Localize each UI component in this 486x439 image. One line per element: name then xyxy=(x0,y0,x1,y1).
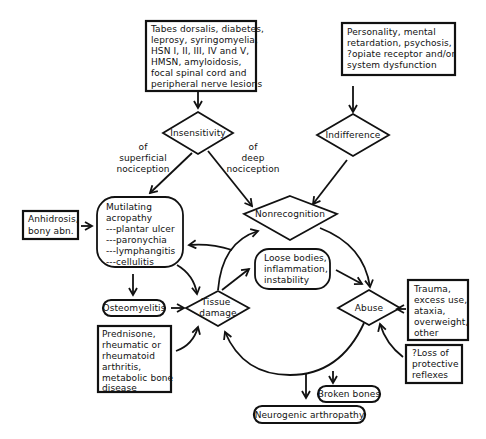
svg-text:overweight,: overweight, xyxy=(414,317,468,327)
arrow-loose-bodies-to-abuse xyxy=(336,270,362,284)
causes-line-4: HMSN, amyloidosis, xyxy=(151,57,242,67)
svg-text:---paronychia: ---paronychia xyxy=(106,235,167,245)
arrow-tissue-damage-to-loose-bodies xyxy=(222,269,249,290)
abuse-diamond: Abuse xyxy=(338,290,400,325)
svg-text:Broken bones: Broken bones xyxy=(318,389,381,399)
svg-text:of: of xyxy=(139,142,149,152)
svg-text:---lymphangitis: ---lymphangitis xyxy=(106,246,176,256)
indifference-label: Indifference xyxy=(326,130,381,140)
arrow-tissue-damage-to-nonrecognition xyxy=(218,231,258,290)
anhidrosis-box: Anhidrosis, bony abn. xyxy=(23,211,79,239)
osteomyelitis-pill: Osteomyelitis xyxy=(103,300,166,316)
svg-text:Neurogenic arthropathy: Neurogenic arthropathy xyxy=(255,410,365,420)
causes-line-3: HSN I, II, III, IV and V, xyxy=(151,46,249,56)
svg-text:---cellulitis: ---cellulitis xyxy=(106,257,154,267)
svg-text:Osteomyelitis: Osteomyelitis xyxy=(103,303,166,313)
insensitivity-diamond: Insensitivity xyxy=(163,112,233,154)
svg-text:rheumatic or: rheumatic or xyxy=(102,340,161,350)
svg-text:protective: protective xyxy=(412,359,459,369)
svg-text:disease: disease xyxy=(102,383,137,393)
svg-text:Mutilating: Mutilating xyxy=(106,202,152,212)
svg-text:deep: deep xyxy=(242,153,265,163)
causes-line-1: Tabes dorsalis, diabetes, xyxy=(150,24,264,34)
insensitivity-label: Insensitivity xyxy=(170,128,226,138)
arrow-indifference-to-nonrecognition xyxy=(313,160,347,204)
superficial-nociception-label: of superficial nociception xyxy=(116,142,169,174)
svg-text:reflexes: reflexes xyxy=(412,370,448,380)
tissue-damage-diamond: Tissue damage xyxy=(186,291,249,326)
svg-text:?Loss of: ?Loss of xyxy=(412,348,450,358)
causes-line-6: peripheral nerve lesions xyxy=(151,79,262,89)
svg-text:other: other xyxy=(414,328,439,338)
causes-line-2: leprosy, syringomyelia, xyxy=(151,35,258,45)
svg-text:Tissue: Tissue xyxy=(201,297,231,307)
svg-text:---plantar ulcer: ---plantar ulcer xyxy=(106,224,175,234)
personality-line-2: retardation, psychosis, xyxy=(347,38,452,48)
prednisone-box: Prednisone, rheumatic or rheumatoid arth… xyxy=(98,326,174,393)
broken-bones-pill: Broken bones xyxy=(318,386,381,402)
trauma-box: Trauma, excess use, ataxia, overweight, … xyxy=(408,280,468,340)
svg-text:nociception: nociception xyxy=(226,164,279,174)
personality-line-1: Personality, mental xyxy=(347,27,436,37)
mutilating-acropathy-box: Mutilating acropathy ---plantar ulcer --… xyxy=(97,197,183,267)
svg-text:of: of xyxy=(249,142,259,152)
arrow-abuse-to-tissue-damage xyxy=(225,323,364,375)
svg-text:rheumatoid: rheumatoid xyxy=(102,351,155,361)
loose-bodies-box: Loose bodies, inflammation, instability xyxy=(255,249,330,289)
arrow-tissue-damage-to-mutilating xyxy=(189,245,232,250)
svg-text:nociception: nociception xyxy=(116,164,169,174)
arrow-mutilating-to-tissue-damage xyxy=(177,265,197,294)
flowchart-canvas: Tabes dorsalis, diabetes, leprosy, syrin… xyxy=(0,0,486,439)
deep-nociception-label: of deep nociception xyxy=(226,142,279,174)
svg-text:bony abn.: bony abn. xyxy=(28,226,74,236)
svg-text:Loose bodies,: Loose bodies, xyxy=(264,253,327,263)
personality-line-3: ?opiate receptor and/or xyxy=(347,49,455,59)
personality-line-4: system dysfunction xyxy=(347,60,437,70)
personality-box: Personality, mental retardation, psychos… xyxy=(342,23,455,75)
svg-text:acropathy: acropathy xyxy=(106,213,153,223)
svg-text:metabolic bone: metabolic bone xyxy=(102,373,174,383)
svg-text:Anhidrosis,: Anhidrosis, xyxy=(28,214,79,224)
svg-text:Prednisone,: Prednisone, xyxy=(102,329,156,339)
nonrecognition-diamond: Nonrecognition xyxy=(244,196,337,240)
arrow-reflexes-to-abuse xyxy=(380,324,403,357)
svg-text:damage: damage xyxy=(199,308,237,318)
neurogenic-arthropathy-pill: Neurogenic arthropathy xyxy=(254,406,365,423)
svg-text:instability: instability xyxy=(264,275,310,285)
svg-text:ataxia,: ataxia, xyxy=(414,306,445,316)
svg-text:arthritis,: arthritis, xyxy=(102,362,141,372)
causes-box: Tabes dorsalis, diabetes, leprosy, syrin… xyxy=(146,21,264,91)
nonrecognition-label: Nonrecognition xyxy=(255,209,325,219)
causes-line-5: focal spinal cord and xyxy=(151,68,247,78)
svg-text:Abuse: Abuse xyxy=(355,303,384,313)
svg-text:superficial: superficial xyxy=(119,153,167,163)
svg-text:inflammation,: inflammation, xyxy=(264,264,328,274)
svg-text:Trauma,: Trauma, xyxy=(413,284,451,294)
indifference-diamond: Indifference xyxy=(317,114,389,156)
arrow-prednisone-to-tissue-damage xyxy=(176,327,198,351)
loss-reflexes-box: ?Loss of protective reflexes xyxy=(406,345,462,383)
svg-text:excess use,: excess use, xyxy=(414,295,467,305)
